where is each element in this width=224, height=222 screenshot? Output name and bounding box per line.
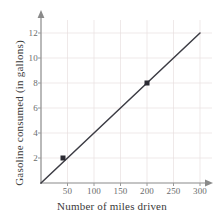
x-tick-label: 100 <box>87 186 101 196</box>
data-point-marker <box>145 81 150 86</box>
vertical-gridlines <box>68 20 201 183</box>
x-tick-label: 150 <box>113 186 127 196</box>
x-tick-label: 200 <box>140 186 154 196</box>
horizontal-gridlines <box>41 33 212 158</box>
y-tick-label: 2 <box>33 153 38 163</box>
y-tick-label: 4 <box>33 128 38 138</box>
y-tick-label: 8 <box>33 78 38 88</box>
y-tick-label: 10 <box>29 53 38 63</box>
x-tick-label: 300 <box>193 186 207 196</box>
chart-figure: 2 4 6 8 10 12 50 100 150 200 250 300 Num… <box>0 0 224 222</box>
y-tick-label: 12 <box>29 28 38 38</box>
x-tick-label: 50 <box>63 186 72 196</box>
y-axis-title: Gasoline consumed (in gallons) <box>13 38 25 188</box>
x-axis-title: Number of miles driven <box>0 200 224 212</box>
x-tick-label: 250 <box>166 186 180 196</box>
y-tick-label: 6 <box>33 103 38 113</box>
data-point-marker <box>61 156 66 161</box>
